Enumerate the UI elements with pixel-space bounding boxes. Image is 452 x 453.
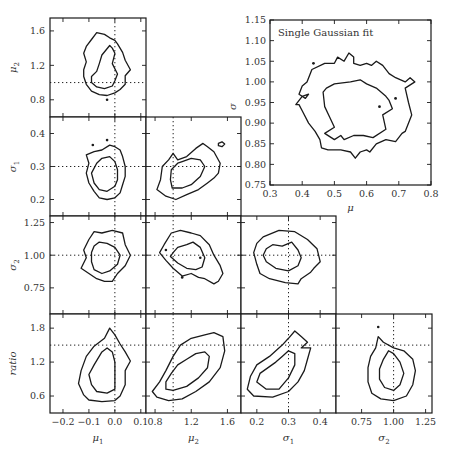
- y-axis-label-sigma2: σ2: [7, 259, 21, 270]
- contour-dot: [106, 139, 109, 142]
- inset-x-tick-label: 0.5: [327, 188, 342, 199]
- y-tick-label: 0.2: [30, 194, 45, 205]
- x-axis-label-mu1: μ1: [93, 432, 104, 446]
- y-axis-label-mu2: μ2: [7, 62, 21, 73]
- contour-dot: [181, 276, 184, 279]
- y-tick-label: 0.4: [30, 128, 45, 139]
- y-tick-label: 1.8: [30, 322, 45, 333]
- inset-contour-dot: [378, 105, 381, 108]
- x-tick-label: 0.1: [133, 416, 148, 427]
- x-tick-label: 1.00: [383, 416, 404, 427]
- x-tick-label: 1.2: [184, 416, 199, 427]
- x-tick-label: −0.2: [51, 416, 74, 427]
- x-tick-label: 0.2: [249, 416, 264, 427]
- y-tick-label: 0.8: [30, 94, 45, 105]
- contour-dot: [377, 326, 380, 329]
- inset-y-tick-label: 0.95: [245, 97, 266, 108]
- panel-ratio-vs-sigma2: 0.751.001.25σ2: [336, 314, 436, 446]
- corner-plot-figure: 0.81.21.6μ20.20.30.4σ10.751.001.25σ20.61…: [0, 0, 452, 453]
- x-axis-label-sigma1: σ1: [283, 432, 294, 446]
- inset-y-axis-label: σ: [227, 102, 238, 110]
- y-tick-label: 0.3: [30, 161, 45, 172]
- contour-dot: [106, 98, 109, 101]
- x-tick-label: 1.6: [220, 416, 235, 427]
- panel-sigma2-vs-sigma1: [241, 216, 336, 314]
- y-tick-label: 0.75: [24, 282, 45, 293]
- y-tick-label: 0.6: [30, 390, 45, 401]
- y-axis-label-sigma1: σ1: [7, 161, 21, 172]
- corner-plot-svg: 0.81.21.6μ20.20.30.4σ10.751.001.25σ20.61…: [0, 0, 452, 453]
- x-tick-label: 0.4: [313, 416, 328, 427]
- inset-single-gaussian-fit: 0.30.40.50.60.70.80.750.800.850.900.951.…: [227, 14, 439, 213]
- x-tick-label: 0.75: [351, 416, 372, 427]
- inset-y-tick-label: 1.00: [245, 76, 266, 87]
- inset-x-axis-label: μ: [347, 202, 354, 213]
- contour-dot: [199, 257, 202, 260]
- inset-y-tick-label: 1.10: [245, 35, 266, 46]
- x-tick-label: 0.8: [147, 416, 162, 427]
- y-tick-label: 1.6: [30, 25, 45, 36]
- x-tick-label: −0.1: [77, 416, 100, 427]
- panel-sigma1-vs-mu1: 0.20.30.4σ1: [7, 117, 146, 216]
- inset-y-tick-label: 0.90: [245, 117, 266, 128]
- inset-contour-dot: [394, 97, 397, 100]
- y-tick-label: 1.25: [24, 217, 45, 228]
- inset-y-tick-label: 0.80: [245, 159, 266, 170]
- panel-sigma1-vs-mu2: [146, 117, 241, 216]
- inset-contour-dot: [312, 62, 315, 65]
- inset-y-tick-label: 1.15: [245, 14, 266, 25]
- x-tick-label: 1.25: [415, 416, 436, 427]
- panel-ratio-vs-mu1: 0.61.21.8ratio−0.2−0.10.00.1μ1: [7, 314, 148, 446]
- inset-y-tick-label: 0.75: [245, 179, 266, 190]
- contour-dot: [165, 249, 168, 252]
- panel-sigma2-vs-mu2: [146, 216, 241, 314]
- inset-x-tick-label: 0.4: [295, 188, 310, 199]
- y-axis-label-ratio: ratio: [7, 352, 18, 376]
- y-tick-label: 1.2: [30, 356, 45, 367]
- panel-mu2-vs-mu1: 0.81.21.6μ2: [7, 18, 146, 117]
- x-tick-label: 0.0: [107, 416, 122, 427]
- x-axis-label-sigma2: σ2: [378, 432, 389, 446]
- y-tick-label: 1.00: [24, 250, 45, 261]
- inset-title: Single Gaussian fit: [278, 27, 373, 38]
- panel-ratio-vs-mu2: 0.81.21.6μ2: [146, 314, 241, 446]
- panel-sigma2-vs-mu1: 0.751.001.25σ2: [7, 216, 146, 314]
- x-axis-label-mu2: μ2: [188, 432, 199, 446]
- inset-x-tick-label: 0.6: [359, 188, 374, 199]
- contour-dot: [92, 144, 95, 147]
- y-tick-label: 1.2: [30, 60, 45, 71]
- panel-ratio-vs-sigma1: 0.20.30.4σ1: [241, 314, 336, 446]
- inset-y-tick-label: 1.05: [245, 56, 266, 67]
- x-tick-label: 0.3: [281, 416, 296, 427]
- inset-x-tick-label: 0.7: [391, 188, 406, 199]
- inset-x-tick-label: 0.8: [423, 188, 438, 199]
- inset-y-tick-label: 0.85: [245, 138, 266, 149]
